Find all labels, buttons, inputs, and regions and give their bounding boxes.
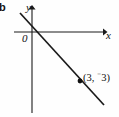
plotted-line	[20, 13, 104, 105]
part-label: b	[0, 1, 5, 13]
point-label-close-paren: )	[106, 72, 110, 83]
x-axis-label: x	[106, 30, 111, 41]
point-label-x-value: 3,	[87, 72, 98, 83]
origin-label: 0	[22, 33, 28, 44]
data-point-label: (3, ⁻3)	[83, 70, 110, 84]
y-axis-label: y	[26, 2, 31, 13]
data-point-marker	[78, 79, 83, 84]
coordinate-plane-figure: b y x 0 (3, ⁻3)	[0, 0, 119, 117]
graph-canvas	[0, 0, 119, 117]
